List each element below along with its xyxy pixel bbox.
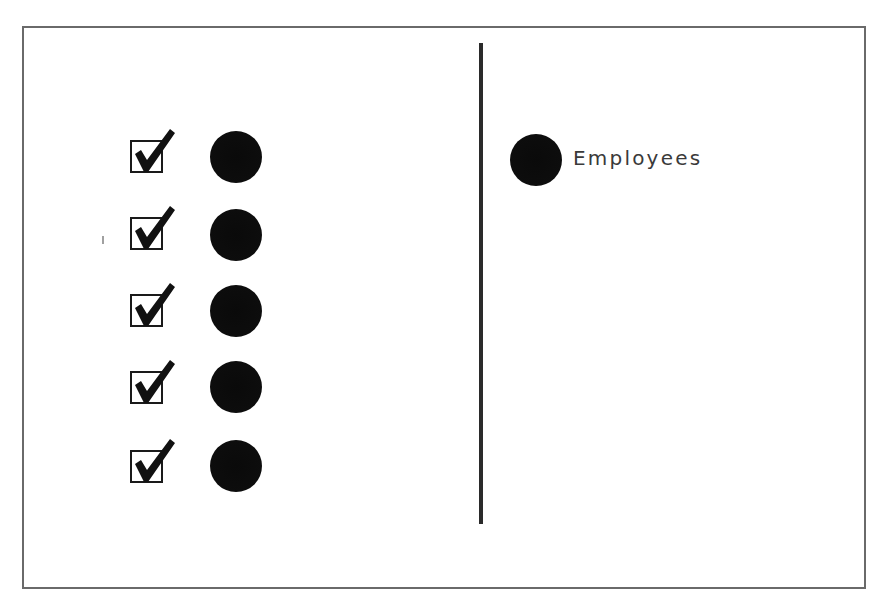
employee-marker-4 bbox=[210, 361, 262, 413]
legend-marker-icon bbox=[510, 134, 562, 186]
checkbox-row-1[interactable] bbox=[130, 140, 163, 173]
checkbox-row-5[interactable] bbox=[130, 450, 163, 483]
employee-marker-2 bbox=[210, 209, 262, 261]
employee-marker-5 bbox=[210, 440, 262, 492]
checkbox-row-3[interactable] bbox=[130, 294, 163, 327]
stray-mark bbox=[102, 236, 104, 244]
checkbox-row-2[interactable] bbox=[130, 217, 163, 250]
employee-marker-3 bbox=[210, 285, 262, 337]
legend-label: Employees bbox=[573, 146, 702, 170]
employee-marker-1 bbox=[210, 131, 262, 183]
vertical-divider bbox=[479, 43, 483, 524]
checkbox-row-4[interactable] bbox=[130, 371, 163, 404]
